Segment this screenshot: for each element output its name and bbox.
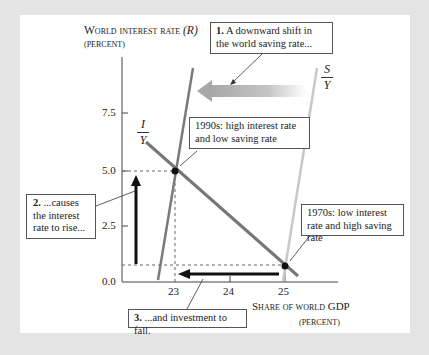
y-axis xyxy=(122,57,128,282)
note-2-number: 2. xyxy=(33,197,41,208)
equilibrium-1970s-box: 1970s: low interest rate and high saving… xyxy=(301,204,404,236)
note-3-number: 3. xyxy=(134,312,142,323)
note-2-text: ...causes the interest rate to rise... xyxy=(33,197,85,233)
y-tick-2-5: 2.5 xyxy=(102,219,116,231)
y-axis-variable: (R) xyxy=(183,24,198,36)
x-tick-23: 23 xyxy=(168,285,179,297)
y-tick-0-0: 0.0 xyxy=(102,275,116,287)
note-1-number: 1. xyxy=(216,25,224,36)
shift-arrow-icon xyxy=(197,80,306,102)
x-axis xyxy=(122,276,338,282)
x-tick-24: 24 xyxy=(223,285,234,297)
note-1-box: 1. A downward shift in the world saving … xyxy=(210,22,333,54)
x-axis-unit: (PERCENT) xyxy=(299,318,340,327)
equilibrium-1970s-point xyxy=(282,263,289,270)
rate-rise-arrow-icon xyxy=(131,175,141,264)
equilibrium-1990s-text: 1990s: high interest rate and low saving… xyxy=(195,120,296,144)
investment-curve-label: I Y xyxy=(137,118,149,147)
iy-denominator: Y xyxy=(140,133,147,147)
saving-curve-1970s xyxy=(283,68,317,281)
guide-lines xyxy=(122,171,285,282)
x-axis-title: Share of world GDP xyxy=(252,300,350,312)
equilibrium-1990s-box: 1990s: high interest rate and low saving… xyxy=(189,117,310,149)
y-axis-title: World interest rate (R) xyxy=(84,24,198,36)
y-tick-5-0: 5.0 xyxy=(102,164,116,176)
y-axis-title-text: World interest rate xyxy=(84,24,180,36)
equilibrium-1990s-point xyxy=(172,168,179,175)
iy-numerator: I xyxy=(141,117,145,131)
sy-denominator: Y xyxy=(324,78,331,92)
sy-numerator: S xyxy=(324,62,330,76)
y-axis-unit: (PERCENT) xyxy=(84,40,125,49)
note-2-box: 2. ...causes the interest rate to rise..… xyxy=(26,194,96,239)
note-1-text: A downward shift in the world saving rat… xyxy=(216,25,312,49)
investment-fall-arrow-icon xyxy=(178,269,279,279)
saving-curve-label: S Y xyxy=(321,63,333,92)
x-tick-25: 25 xyxy=(278,285,289,297)
y-tick-7-5: 7.5 xyxy=(102,106,116,118)
note-3-box: 3. ...and investment to fall. xyxy=(128,309,247,328)
